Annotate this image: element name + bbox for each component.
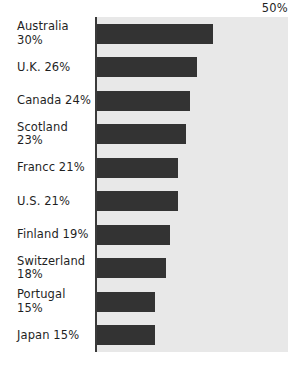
chart-row: Canada 24% [0, 84, 297, 118]
row-label-line: Francc 21% [17, 161, 93, 175]
horizontal-bar-chart: 50% Australia 30%U.K. 26%Canada 24%Scotl… [0, 0, 297, 372]
chart-row: Finland 19% [0, 218, 297, 252]
row-label: Australia 30% [17, 17, 93, 51]
chart-row: Japan 15% [0, 319, 297, 353]
chart-row: Francc 21% [0, 151, 297, 185]
bar [97, 24, 213, 44]
bar [97, 292, 155, 312]
bar [97, 258, 166, 278]
chart-row: U.S. 21% [0, 185, 297, 219]
bar [97, 225, 170, 245]
row-label: Canada 24% [17, 84, 93, 118]
row-label: Japan 15% [17, 319, 93, 353]
bar [97, 158, 178, 178]
row-label: Portugal 15% [17, 285, 93, 319]
axis-max-label: 50% [262, 1, 288, 15]
row-label-line: U.K. 26% [17, 61, 93, 75]
bar [97, 91, 190, 111]
row-label: Finland 19% [17, 218, 93, 252]
bar [97, 191, 178, 211]
row-label-line: Japan 15% [17, 329, 93, 343]
row-label-line: Switzerland [17, 255, 93, 269]
row-label-line: U.S. 21% [17, 195, 93, 209]
chart-row: Switzerland18% [0, 252, 297, 286]
chart-row: Scotland 23% [0, 118, 297, 152]
row-label-line: Finland 19% [17, 228, 93, 242]
chart-row: Australia 30% [0, 17, 297, 51]
row-label: Francc 21% [17, 151, 93, 185]
row-label: U.S. 21% [17, 185, 93, 219]
row-label: Scotland 23% [17, 118, 93, 152]
row-label-line: Portugal 15% [17, 288, 93, 315]
row-label-line: Canada 24% [17, 94, 93, 108]
chart-row: Portugal 15% [0, 285, 297, 319]
row-label-line: 18% [17, 268, 93, 282]
row-label: Switzerland18% [17, 252, 93, 286]
chart-row: U.K. 26% [0, 51, 297, 85]
row-label-line: Scotland 23% [17, 121, 93, 148]
bar [97, 57, 197, 77]
bar [97, 124, 186, 144]
bar [97, 325, 155, 345]
row-label-line: Australia 30% [17, 20, 93, 47]
row-label: U.K. 26% [17, 51, 93, 85]
